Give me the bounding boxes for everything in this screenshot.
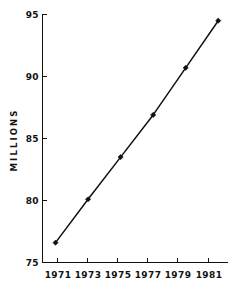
y-tick-label-95: 95	[26, 10, 39, 20]
x-tick-label-1981: 1981	[196, 270, 223, 280]
line-chart-figure: 95 90 85 80 75 1971 1973 1975 1977 1979 …	[0, 0, 232, 289]
chart-canvas: 95 90 85 80 75 1971 1973 1975 1977 1979 …	[0, 0, 232, 289]
y-tick-label-90: 90	[26, 72, 39, 82]
x-tick-label-1975: 1975	[105, 270, 132, 280]
y-axis-title: MILLIONS	[9, 109, 19, 172]
x-tick-label-1979: 1979	[165, 270, 192, 280]
x-tick-label-1971: 1971	[45, 270, 72, 280]
x-tick-label-1977: 1977	[135, 270, 162, 280]
x-tick-label-1973: 1973	[75, 270, 102, 280]
y-tick-label-85: 85	[26, 134, 39, 144]
y-tick-label-75: 75	[26, 258, 39, 268]
y-tick-label-80: 80	[26, 196, 39, 206]
chart-background	[0, 0, 232, 289]
